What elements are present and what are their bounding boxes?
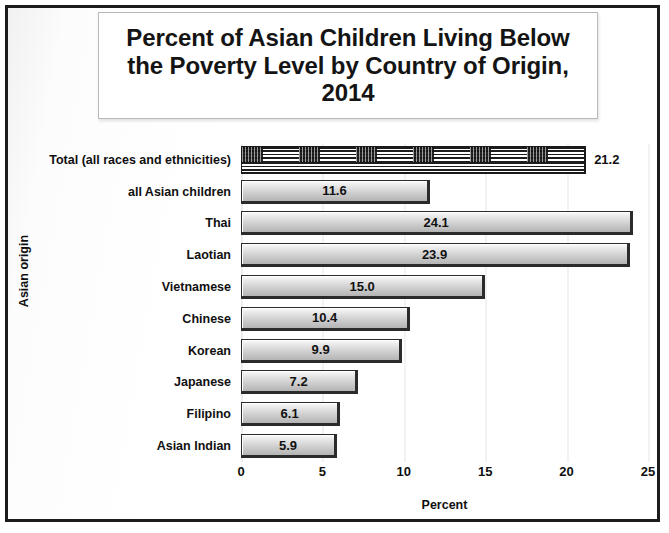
bar-value-label: 7.2 [290,374,308,389]
bar[interactable]: 5.9 [241,434,337,458]
bar-value-label: 21.2 [594,152,619,167]
x-axis-ticks: 0510152025 [241,464,648,486]
bar-value-label: 5.9 [279,438,297,453]
bar[interactable] [241,146,586,174]
bar[interactable]: 6.1 [241,402,340,426]
flag-stars-pattern [242,147,584,163]
bar[interactable]: 23.9 [241,243,630,267]
x-tick-label: 10 [397,464,411,479]
category-label: Vietnamese [162,271,231,303]
category-label: Thai [205,208,231,240]
x-tick-label: 0 [237,464,244,479]
bar[interactable]: 15.0 [241,275,485,299]
bar-value-label: 10.4 [312,310,337,325]
bar-row[interactable]: 21.2 [241,144,648,176]
category-label: Filipino [187,398,231,430]
bar-value-label: 24.1 [424,215,449,230]
gridline-25 [648,144,650,462]
bar-value-label: 6.1 [281,406,299,421]
bar-row[interactable]: 23.9 [241,239,648,271]
bars-layer: 21.211.624.123.915.010.49.97.26.15.9 [241,144,648,462]
category-label: Korean [188,335,231,367]
bar-value-label: 15.0 [349,279,374,294]
x-tick-label: 25 [641,464,655,479]
y-axis-title: Asian origin [17,211,31,331]
category-label: Japanese [174,367,231,399]
chart-frame: Percent of Asian Children Living Below t… [5,5,660,522]
chart-canvas: Percent of Asian Children Living Below t… [8,8,657,519]
category-label: all Asian children [128,176,231,208]
category-axis-labels: Total (all races and ethnicities)all Asi… [28,144,236,462]
bar[interactable]: 7.2 [241,370,358,394]
flag-stripes-pattern [242,162,584,172]
bar[interactable]: 11.6 [241,180,430,204]
x-axis-title: Percent [241,498,648,512]
bar-value-label: 23.9 [422,247,447,262]
bar[interactable]: 9.9 [241,339,402,363]
category-label: Total (all races and ethnicities) [49,144,231,176]
x-tick-label: 20 [559,464,573,479]
bar-value-label: 11.6 [322,183,347,198]
category-label: Asian Indian [157,430,231,462]
category-label: Laotian [187,239,231,271]
bar-row[interactable]: 5.9 [241,430,648,462]
bar-value-label: 9.9 [312,342,330,357]
bar[interactable]: 24.1 [241,211,633,235]
chart-title-box: Percent of Asian Children Living Below t… [98,12,598,119]
bar-row[interactable]: 15.0 [241,271,648,303]
bar-row[interactable]: 24.1 [241,208,648,240]
x-tick-label: 5 [319,464,326,479]
bar-row[interactable]: 9.9 [241,335,648,367]
page-title: Percent of Asian Children Living Below t… [99,24,597,107]
bar[interactable]: 10.4 [241,307,410,331]
bar-row[interactable]: 10.4 [241,303,648,335]
category-label: Chinese [182,303,231,335]
plot-area: 21.211.624.123.915.010.49.97.26.15.9 [241,144,648,462]
x-tick-label: 15 [478,464,492,479]
bar-row[interactable]: 11.6 [241,176,648,208]
bar-row[interactable]: 6.1 [241,398,648,430]
bar-row[interactable]: 7.2 [241,367,648,399]
